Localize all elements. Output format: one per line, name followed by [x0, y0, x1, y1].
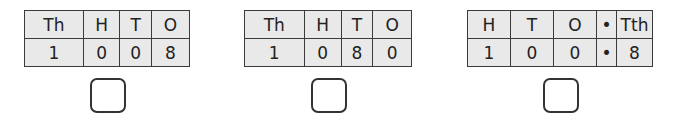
digit-ones: 0	[554, 39, 597, 67]
digit-row: 1 0 0 • 8	[468, 39, 653, 67]
header-thousands: Th	[245, 11, 305, 39]
header-hundreds: H	[304, 11, 341, 39]
header-ones: O	[554, 11, 597, 39]
header-row: Th H T O	[25, 11, 190, 39]
digit-thousands: 1	[25, 39, 84, 67]
digit-thousands: 1	[245, 39, 305, 67]
place-value-table-2: Th H T O 1 0 8 0	[244, 10, 412, 67]
place-value-table-1: Th H T O 1 0 0 8	[24, 10, 190, 67]
header-row: H T O • Tth	[468, 11, 653, 39]
digit-hundreds: 0	[304, 39, 341, 67]
header-row: Th H T O	[245, 11, 412, 39]
digit-hundreds: 0	[83, 39, 120, 67]
digit-tens: 0	[120, 39, 151, 67]
header-tens: T	[341, 11, 373, 39]
header-thousands: Th	[25, 11, 84, 39]
header-tens: T	[120, 11, 151, 39]
decimal-point: •	[597, 11, 617, 39]
header-tenths: Tth	[617, 11, 653, 39]
header-tens: T	[511, 11, 554, 39]
digit-tens: 8	[341, 39, 373, 67]
answer-box-2[interactable]	[311, 78, 347, 113]
digit-row: 1 0 8 0	[245, 39, 412, 67]
digit-tenths: 8	[617, 39, 653, 67]
header-hundreds: H	[83, 11, 120, 39]
answer-box-3[interactable]	[543, 78, 579, 113]
header-ones: O	[151, 11, 189, 39]
decimal-point: •	[597, 39, 617, 67]
digit-ones: 8	[151, 39, 189, 67]
digit-tens: 0	[511, 39, 554, 67]
answer-box-1[interactable]	[90, 78, 126, 113]
digit-ones: 0	[373, 39, 412, 67]
digit-row: 1 0 0 8	[25, 39, 190, 67]
header-ones: O	[373, 11, 412, 39]
digit-hundreds: 1	[468, 39, 511, 67]
header-hundreds: H	[468, 11, 511, 39]
place-value-table-3: H T O • Tth 1 0 0 • 8	[467, 10, 653, 67]
